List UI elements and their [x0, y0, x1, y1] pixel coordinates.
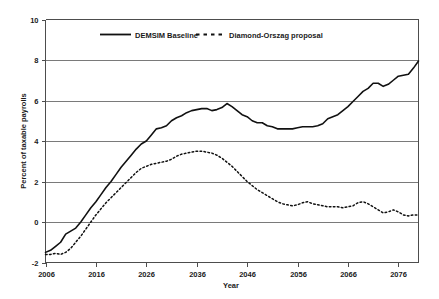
x-tick-marks: [47, 263, 399, 267]
y-tick-marks: [42, 21, 46, 264]
y-tick-label: -2: [32, 259, 39, 268]
x-tick-label: 2006: [38, 270, 55, 279]
x-tick-label: 2056: [290, 270, 307, 279]
series-line-demsim-baseline: [46, 61, 419, 252]
x-tick-label: 2066: [340, 270, 357, 279]
series-line-diamond-orszag-proposal: [46, 151, 419, 254]
x-tick-label: 2016: [88, 270, 105, 279]
x-tick-labels: 20062016202620362046205620662076: [38, 270, 407, 279]
x-tick-label: 2076: [390, 270, 407, 279]
x-tick-label: 2036: [189, 270, 206, 279]
line-chart: 20062016202620362046205620662076 -202468…: [0, 0, 439, 299]
legend-label-demsim-baseline: DEMSIM Baseline: [135, 31, 198, 40]
y-tick-label: 10: [30, 16, 38, 25]
y-tick-label: 4: [34, 137, 39, 146]
gridlines: [46, 61, 419, 223]
x-tick-label: 2026: [138, 270, 155, 279]
y-tick-label: 6: [34, 97, 38, 106]
y-axis-title: Percent of taxable payrolls: [19, 93, 28, 188]
data-series: [46, 61, 419, 254]
legend-label-diamond-orszag-proposal: Diamond-Orszag proposal: [229, 31, 323, 40]
y-tick-label: 8: [34, 56, 38, 65]
y-tick-label: 2: [34, 178, 38, 187]
y-tick-label: 0: [34, 218, 38, 227]
x-axis-title: Year: [223, 281, 239, 290]
chart-container: 20062016202620362046205620662076 -202468…: [0, 0, 439, 299]
x-tick-label: 2046: [239, 270, 256, 279]
legend: DEMSIM Baseline Diamond-Orszag proposal: [100, 31, 323, 40]
y-tick-labels: -20246810: [30, 16, 39, 268]
